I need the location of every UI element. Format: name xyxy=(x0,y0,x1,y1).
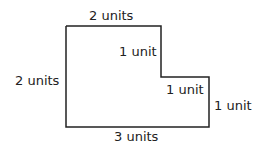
l-shape-outline xyxy=(66,26,209,127)
label-top: 2 units xyxy=(89,9,133,22)
label-bottom: 3 units xyxy=(114,130,158,143)
label-right: 1 unit xyxy=(214,99,252,112)
label-left: 2 units xyxy=(15,74,59,87)
label-inner-horizontal: 1 unit xyxy=(166,83,204,96)
label-inner-vertical: 1 unit xyxy=(119,45,157,58)
